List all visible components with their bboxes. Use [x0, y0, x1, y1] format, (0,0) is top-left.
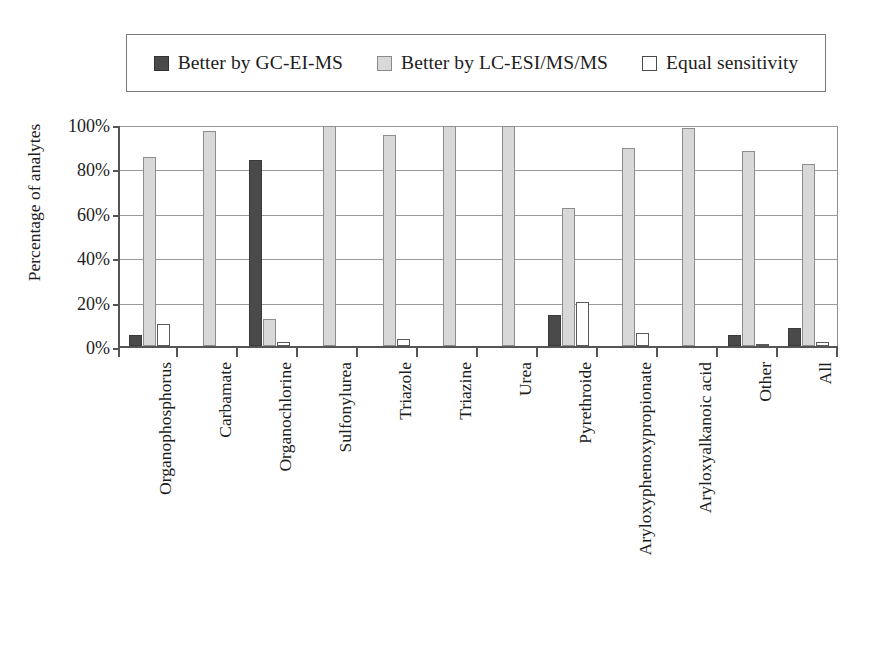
bar-group	[359, 126, 419, 346]
x-axis-label-cell: Aryloxyphenoxypropionate	[598, 358, 658, 588]
bar-group	[180, 126, 240, 346]
bar	[802, 164, 815, 346]
x-axis-label-cell: Organochlorine	[238, 358, 298, 588]
x-axis-category-label: Carbamate	[215, 362, 236, 438]
y-axis-tick-mark	[113, 304, 120, 306]
x-axis-tick-cell	[358, 348, 418, 358]
bar-group	[599, 126, 659, 346]
bar	[443, 126, 456, 346]
x-axis-label-cell: Triazole	[358, 358, 418, 588]
bar	[756, 344, 769, 346]
x-axis-label-cell: Aryloxyalkanoic acid	[658, 358, 718, 588]
bar	[157, 324, 170, 346]
plot-area	[118, 126, 838, 348]
bar-chart: Percentage of analytes 100%80%60%40%20%0…	[0, 0, 869, 647]
bar-group	[299, 126, 359, 346]
x-axis-tick-cell	[178, 348, 238, 358]
bar	[203, 131, 216, 346]
bar-group	[419, 126, 479, 346]
x-axis-category-label: Triazine	[455, 362, 476, 420]
bar-group	[718, 126, 778, 346]
bar	[129, 335, 142, 346]
bar	[323, 126, 336, 346]
bar	[622, 148, 635, 346]
bar	[502, 126, 515, 346]
bar-group	[658, 126, 718, 346]
x-axis-tick-cell	[598, 348, 658, 358]
x-axis-category-labels: OrganophosphorusCarbamateOrganochlorineS…	[118, 358, 838, 588]
bar-group	[778, 126, 838, 346]
y-axis-tick-label: 60%	[58, 204, 110, 225]
y-axis-tick-mark	[113, 170, 120, 172]
bar	[383, 135, 396, 346]
y-axis-tick-label: 20%	[58, 293, 110, 314]
y-axis-tick-label: 0%	[58, 338, 110, 359]
x-axis-category-label: Urea	[515, 362, 536, 396]
bar	[742, 151, 755, 346]
bar-group	[479, 126, 539, 346]
x-axis-label-cell: Other	[718, 358, 778, 588]
x-axis-label-cell: Carbamate	[178, 358, 238, 588]
bar-group	[240, 126, 300, 346]
x-axis-tick-cell	[298, 348, 358, 358]
y-axis-tick-label: 100%	[58, 116, 110, 137]
x-axis-category-label: Organophosphorus	[155, 362, 176, 495]
x-axis-label-cell: Triazine	[418, 358, 478, 588]
bar	[816, 342, 829, 346]
x-axis-tick-cell	[658, 348, 718, 358]
x-axis-tick-cell	[118, 348, 178, 358]
x-axis-tick-cell	[778, 348, 838, 358]
y-axis-tick-label: 40%	[58, 249, 110, 270]
x-axis-category-label: Aryloxyphenoxypropionate	[635, 362, 656, 555]
x-axis-category-label: Triazole	[395, 362, 416, 420]
bar	[576, 302, 589, 346]
y-axis-tick-mark	[113, 215, 120, 217]
x-axis-category-label: All	[815, 362, 836, 384]
x-axis-category-label: Other	[755, 362, 776, 402]
x-axis-category-label: Pyrethroide	[575, 362, 596, 444]
x-axis-category-label: Sulfonylurea	[335, 362, 356, 452]
y-axis-tick-labels: 100%80%60%40%20%0%	[58, 0, 110, 647]
bar	[728, 335, 741, 346]
y-axis-tick-label: 80%	[58, 160, 110, 181]
y-axis-tick-mark	[113, 126, 120, 128]
x-axis-tick-cell	[238, 348, 298, 358]
x-axis-label-cell: All	[778, 358, 838, 588]
bar	[548, 315, 561, 346]
bar	[143, 157, 156, 346]
x-axis-label-cell: Urea	[478, 358, 538, 588]
x-axis-tick-mark	[836, 348, 838, 357]
y-axis-tick-mark	[113, 259, 120, 261]
x-axis-tick-cell	[718, 348, 778, 358]
bar	[397, 339, 410, 346]
bar	[636, 333, 649, 346]
bar	[249, 160, 262, 346]
x-axis-tick-marks	[118, 348, 838, 358]
x-axis-category-label: Organochlorine	[275, 362, 296, 472]
x-axis-tick-cell	[418, 348, 478, 358]
x-axis-category-label: Aryloxyalkanoic acid	[695, 362, 716, 513]
bar	[682, 128, 695, 346]
bar	[788, 328, 801, 346]
x-axis-tick-cell	[538, 348, 598, 358]
bar	[277, 342, 290, 346]
x-axis-tick-cell	[478, 348, 538, 358]
bar-group	[539, 126, 599, 346]
x-axis-label-cell: Sulfonylurea	[298, 358, 358, 588]
bar-group	[120, 126, 180, 346]
x-axis-label-cell: Organophosphorus	[118, 358, 178, 588]
x-axis-label-cell: Pyrethroide	[538, 358, 598, 588]
y-axis-title: Percentage of analytes	[24, 103, 45, 303]
bar-groups	[120, 126, 838, 346]
bar	[562, 208, 575, 346]
bar	[263, 319, 276, 346]
